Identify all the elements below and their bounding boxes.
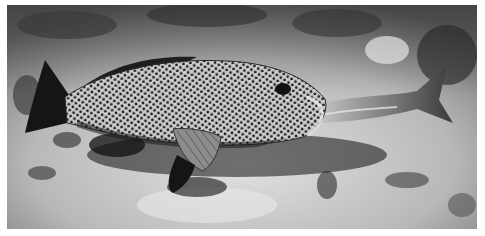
photo: [7, 5, 477, 229]
fish-eye: [275, 83, 291, 95]
photo-frame: Black-and-white underwater photograph of…: [7, 5, 477, 229]
